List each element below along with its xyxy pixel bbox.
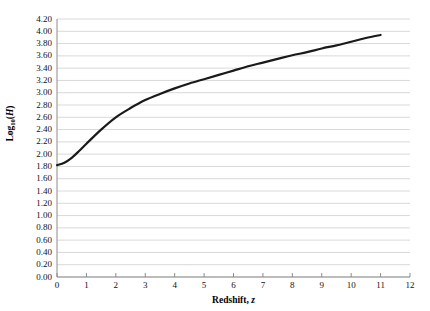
y-axis-title-subscript: 10 <box>9 119 16 126</box>
x-axis-tick-label: 3 <box>133 281 157 290</box>
y-axis-title: Log10(H) <box>5 84 16 164</box>
y-axis-title-paren-close: ) <box>5 105 15 108</box>
x-axis-tick-label: 10 <box>339 281 363 290</box>
chart-container: 0.000.200.400.600.801.001.201.401.601.80… <box>0 0 430 311</box>
x-axis-tick-label: 7 <box>251 281 275 290</box>
x-axis-tick-label: 9 <box>310 281 334 290</box>
x-axis-tick-label: 4 <box>163 281 187 290</box>
x-axis-tick-label: 2 <box>104 281 128 290</box>
x-axis-tick-labels: 0123456789101112 <box>0 0 430 311</box>
y-axis-title-paren-open: ( <box>5 116 15 119</box>
x-axis-tick-label: 0 <box>45 281 69 290</box>
x-axis-title: Redshift, z <box>57 295 410 305</box>
y-axis-title-prefix: Log <box>5 126 15 142</box>
x-axis-tick-label: 8 <box>280 281 304 290</box>
x-axis-tick-label: 5 <box>192 281 216 290</box>
x-axis-tick-label: 12 <box>398 281 422 290</box>
x-axis-tick-label: 6 <box>222 281 246 290</box>
x-axis-title-prefix: Redshift, <box>212 295 251 305</box>
x-axis-tick-label: 11 <box>369 281 393 290</box>
x-axis-title-variable: z <box>251 295 255 305</box>
x-axis-tick-label: 1 <box>74 281 98 290</box>
y-axis-title-variable: H <box>5 109 15 116</box>
